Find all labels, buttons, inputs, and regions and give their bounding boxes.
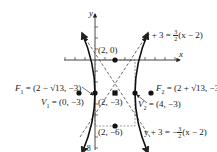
v2-value: = (4, −3) [149, 99, 181, 109]
lower-rhs: (x − 2) [182, 127, 207, 137]
f2-subscript: 2 [162, 89, 165, 95]
vertex-v2 [132, 90, 137, 95]
v2-subscript: 2 [144, 105, 147, 111]
label-top-point: (2, 0) [98, 46, 118, 55]
point-top [112, 57, 117, 62]
y-axis-label: y [89, 9, 93, 18]
label-f1: F1 = (2 − √13, −3) [15, 84, 81, 97]
label-bottom-point: (2, −6) [98, 128, 123, 137]
upper-rhs: (x − 2) [178, 30, 203, 40]
asymptote-upper-equation: y + 3 = 32(x − 2) [145, 29, 203, 42]
v1-pointer [82, 87, 93, 95]
v1-value: = (0, −3) [52, 97, 84, 107]
focus-f2 [148, 90, 153, 95]
lower-lhs: y + 3 = − [144, 127, 177, 137]
point-center [112, 90, 117, 95]
vertex-v1 [92, 90, 97, 95]
upper-lhs: y + 3 = [145, 30, 173, 40]
label-f2: F2 = (2 + √13, −3) [156, 84, 217, 97]
asymptote-lower-equation: y + 3 = −32(x − 2) [144, 126, 207, 139]
x-axis-label: x [179, 50, 183, 59]
label-center-point: (2, −3) [98, 98, 123, 107]
v1-subscript: 1 [47, 103, 50, 109]
label-v1: V1 = (0, −3) [41, 98, 84, 111]
y-tick-label: -8 [84, 144, 91, 152]
f1-subscript: 1 [21, 89, 24, 95]
f1-value: = (2 − √13, −3) [26, 83, 81, 93]
x-axis [64, 57, 180, 60]
label-v2: V2 = (4, −3) [138, 100, 181, 113]
f2-value: = (2 + √13, −3) [167, 83, 217, 93]
